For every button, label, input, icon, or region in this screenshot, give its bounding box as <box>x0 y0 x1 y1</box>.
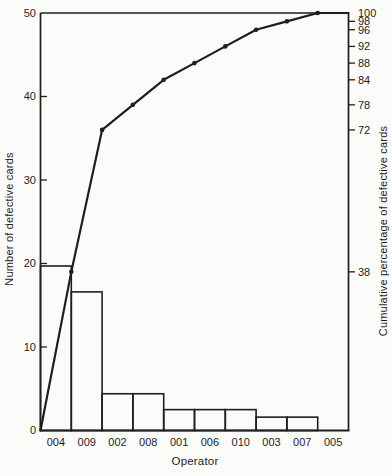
bar-009 <box>71 292 102 431</box>
y-left-tick-label: 30 <box>24 174 36 186</box>
x-axis-title: Operator <box>41 455 349 469</box>
bar-007 <box>287 417 318 430</box>
x-tick-label: 005 <box>324 436 342 448</box>
pareto-chart-figure: 0102030405038727884889296981000040090020… <box>0 0 392 476</box>
x-tick-label: 008 <box>139 436 157 448</box>
x-tick-label: 009 <box>78 436 96 448</box>
left-axis-title: Number of defective cards <box>3 119 19 319</box>
bar-003 <box>256 417 287 430</box>
y-right-tick-label: 88 <box>358 57 370 69</box>
cumulative-point <box>69 270 74 275</box>
bar-001 <box>164 410 195 431</box>
x-tick-label: 001 <box>170 436 188 448</box>
cumulative-point <box>254 27 259 32</box>
x-tick-label: 003 <box>262 436 280 448</box>
x-tick-label: 010 <box>232 436 250 448</box>
y-right-tick-label: 78 <box>358 99 370 111</box>
bar-006 <box>195 410 226 431</box>
right-axis-title: Cumulative percentage of defective cards <box>377 111 392 351</box>
cumulative-line <box>41 13 349 431</box>
cumulative-point <box>192 61 197 66</box>
x-tick-label: 004 <box>47 436 65 448</box>
y-left-tick-label: 50 <box>24 7 36 19</box>
y-right-tick-label: 72 <box>358 124 370 136</box>
cumulative-point <box>285 19 290 24</box>
x-tick-label: 007 <box>293 436 311 448</box>
y-left-tick-label: 10 <box>24 341 36 353</box>
y-right-tick-label: 92 <box>358 40 370 52</box>
y-right-tick-label: 38 <box>358 266 370 278</box>
bar-008 <box>133 394 164 431</box>
y-left-tick-label: 40 <box>24 90 36 102</box>
cumulative-point <box>131 103 136 108</box>
y-left-tick-label: 20 <box>24 257 36 269</box>
y-right-tick-label: 100 <box>358 7 376 19</box>
y-left-tick-label: 0 <box>30 424 36 436</box>
cumulative-point <box>223 44 228 49</box>
cumulative-point <box>161 78 166 83</box>
pareto-svg: 0102030405038727884889296981000040090020… <box>0 0 392 476</box>
x-tick-label: 002 <box>108 436 126 448</box>
bar-002 <box>102 394 133 431</box>
bar-010 <box>225 410 256 431</box>
y-right-tick-label: 84 <box>358 74 370 86</box>
cumulative-point <box>315 11 320 16</box>
x-tick-label: 006 <box>201 436 219 448</box>
cumulative-point <box>100 128 105 133</box>
